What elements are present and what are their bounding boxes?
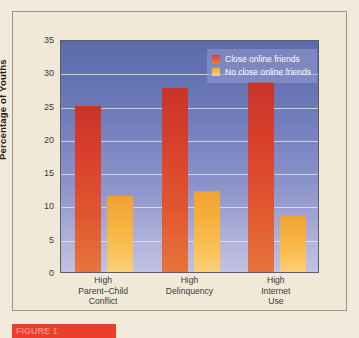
y-axis-tick-label: 30 xyxy=(44,68,54,78)
y-axis-tick-label: 15 xyxy=(44,168,54,178)
bar-noclose-group-0 xyxy=(107,196,133,272)
x-axis-category-line: High xyxy=(146,275,232,286)
chart-legend: Close online friends No close online fri… xyxy=(207,49,317,83)
x-axis-categories: HighParent–ChildConflictHighDelinquencyH… xyxy=(60,275,319,315)
y-axis-tick-label: 0 xyxy=(49,268,54,278)
x-axis-category-line: High xyxy=(60,275,146,286)
legend-label-noclose: No close online friends xyxy=(225,67,311,77)
x-axis-category-label: HighInternetUse xyxy=(233,275,319,307)
legend-swatch-icon-noclose xyxy=(212,68,220,76)
bar-noclose-group-2 xyxy=(280,215,306,272)
y-axis-tick-label: 35 xyxy=(44,35,54,45)
bar-close-group-1 xyxy=(162,88,188,272)
y-axis-title: Percentage of Youths xyxy=(0,59,8,160)
legend-item-close-online-friends: Close online friends xyxy=(212,53,311,65)
figure-container: Percentage of Youths 05101520253035 Clos… xyxy=(0,0,359,338)
bar-close-group-0 xyxy=(75,106,101,272)
figure-caption-chip: FIGURE 1 xyxy=(12,324,116,338)
x-axis-category-line: Use xyxy=(233,296,319,307)
bar-noclose-group-1 xyxy=(194,191,220,272)
y-axis-tick-label: 20 xyxy=(44,135,54,145)
figure-caption-text: FIGURE 1 xyxy=(12,324,116,338)
y-axis-tick-label: 25 xyxy=(44,102,54,112)
x-axis-category-line: Internet xyxy=(233,286,319,297)
x-axis-category-label: HighDelinquency xyxy=(146,275,232,296)
x-axis-category-line: High xyxy=(233,275,319,286)
y-axis-tick-label: 10 xyxy=(44,201,54,211)
x-axis-category-line: Delinquency xyxy=(146,286,232,297)
legend-label-close: Close online friends xyxy=(225,54,300,64)
bar-close-group-2 xyxy=(248,82,274,272)
legend-item-no-close-online-friends: No close online friends xyxy=(212,66,311,78)
x-axis-category-line: Parent–Child xyxy=(60,286,146,297)
chart-panel: Percentage of Youths 05101520253035 Clos… xyxy=(12,11,347,311)
x-axis-category-label: HighParent–ChildConflict xyxy=(60,275,146,307)
plot-area: Close online friends No close online fri… xyxy=(60,40,319,273)
legend-swatch-icon-close xyxy=(212,55,220,63)
x-axis-category-line: Conflict xyxy=(60,296,146,307)
y-axis-tick-label: 5 xyxy=(49,235,54,245)
